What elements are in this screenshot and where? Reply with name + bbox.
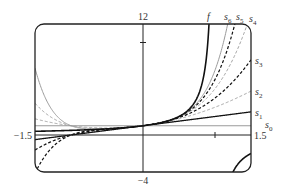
label-s6: s6	[224, 11, 232, 25]
label-s3: s3	[255, 55, 263, 69]
label-f: f	[207, 11, 211, 22]
taylor-polynomial-chart: 12 −4 −1.5 1.5 fs0s1s2s3s4s5s6	[0, 0, 285, 188]
y-max-label: 12	[138, 11, 148, 22]
curve-f	[35, 0, 213, 131]
label-s5: s5	[236, 11, 244, 25]
label-s4: s4	[249, 13, 257, 27]
y-min-label: −4	[138, 175, 149, 186]
x-max-label: 1.5	[254, 130, 267, 141]
x-min-label: −1.5	[14, 130, 32, 141]
label-s1: s1	[255, 107, 263, 121]
series-labels: fs0s1s2s3s4s5s6	[207, 11, 273, 133]
label-s2: s2	[255, 86, 263, 100]
